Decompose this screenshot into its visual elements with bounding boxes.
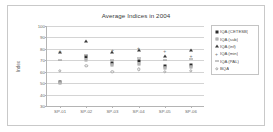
y-tick-label: 100 [38,24,45,29]
x-tick-label: SP-02 [80,109,92,114]
legend-item[interactable]: IQA (min) [214,50,257,57]
y-tick-mark [45,49,47,50]
data-point [58,60,62,61]
x-tick-label: SP-04 [133,109,145,114]
marker-glyph [215,67,218,70]
marker-glyph [215,38,218,41]
data-point [59,82,62,85]
x-tick-mark [86,106,87,108]
data-point [137,68,140,71]
x-tick-mark [191,106,192,108]
y-tick-label: 40 [40,92,45,97]
x-tick-label: SP-03 [106,109,118,114]
x-tick-label: SP-05 [159,109,171,114]
gridline [47,83,204,84]
gridline [47,26,204,27]
y-tick-mark [45,106,47,107]
gridline [47,49,204,50]
legend-marker-icon [214,51,219,57]
x-tick-mark [112,106,113,108]
y-tick-mark [45,60,47,61]
legend-item-label: IQA (inf) [220,44,236,49]
x-tick-mark [139,106,140,108]
marker-glyph [215,30,218,33]
x-tick-label: SP-06 [185,109,197,114]
legend-marker-icon [214,36,219,42]
legend-marker-icon [214,58,219,64]
data-point [110,48,114,52]
data-point [137,62,140,65]
y-tick-label: 50 [40,81,45,86]
data-point [189,54,193,58]
legend-item[interactable]: IQA (sub) [214,35,257,42]
x-tick-label: SP-01 [54,109,66,114]
y-tick-label: 90 [40,35,45,40]
data-point [189,49,193,52]
gridline [47,60,204,61]
gridline [47,37,204,38]
y-tick-mark [45,26,47,27]
x-tick-mark [60,106,61,108]
y-tick-label: 60 [40,69,45,74]
legend-item-label: BQA [220,66,229,71]
legend-item-label: IQA (PAL) [220,59,239,64]
data-point [111,70,114,73]
y-tick-label: 80 [40,46,45,51]
legend-marker-icon [214,29,219,35]
y-tick-label: 70 [40,58,45,63]
legend-item-label: IQA (sub) [220,37,238,42]
gridline [47,72,204,73]
y-tick-mark [45,95,47,96]
legend-marker-icon [214,43,219,49]
y-axis-title: Index [16,50,21,84]
marker-glyph [215,61,219,62]
plot-area: 30405060708090100SP-01SP-02SP-03SP-04SP-… [46,26,204,107]
data-point [137,58,141,59]
data-point [84,54,88,55]
legend-marker-icon [214,66,219,72]
data-point [137,46,141,50]
data-point [85,59,88,62]
marker-glyph [215,45,219,48]
data-point [84,39,88,42]
chart-figure: Average Indices in 2004 Index 3040506070… [7,5,265,126]
legend-item-label: IQA (min) [220,51,238,56]
data-point [163,70,166,73]
data-point [110,60,114,61]
data-point [58,49,62,53]
x-tick-mark [165,106,166,108]
legend-item-label: IQA (CETESB) [220,29,248,34]
chart-title: Average Indices in 2004 [8,12,264,19]
y-tick-label: 30 [40,104,45,109]
marker-glyph [215,52,219,56]
data-point [111,63,114,66]
chart-legend: IQA (CETESB)IQA (sub)IQA (inf)IQA (min)I… [211,25,259,75]
y-tick-mark [45,83,47,84]
data-point [85,64,88,67]
y-tick-mark [45,72,47,73]
legend-item[interactable]: IQA (CETESB) [214,28,257,35]
data-point [189,59,193,60]
gridline [47,95,204,96]
data-point [163,49,167,53]
data-point [163,60,167,61]
legend-item[interactable]: IQA (inf) [214,43,257,50]
legend-item[interactable]: IQA (PAL) [214,58,257,65]
legend-item[interactable]: BQA [214,65,257,72]
data-point [163,54,167,57]
y-tick-mark [45,37,47,38]
